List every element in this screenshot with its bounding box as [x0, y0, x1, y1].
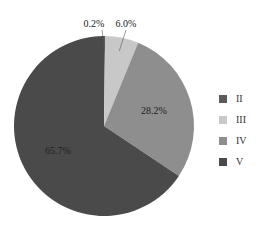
- slice-label: 28.2%: [141, 105, 167, 116]
- legend-item-iii: III: [219, 109, 247, 130]
- slice-label: 0.2%: [84, 18, 105, 29]
- slice-label: 65.7%: [45, 145, 71, 156]
- legend-label: V: [236, 156, 243, 167]
- legend-item-ii: II: [219, 88, 247, 109]
- legend-swatch: [219, 116, 227, 124]
- legend: II III IV V: [219, 88, 247, 172]
- legend-swatch: [219, 95, 227, 103]
- legend-item-iv: IV: [219, 130, 247, 151]
- pie-slices: [14, 36, 194, 216]
- legend-swatch: [219, 158, 227, 166]
- slice-label: 6.0%: [116, 18, 137, 29]
- legend-item-v: V: [219, 151, 247, 172]
- legend-label: III: [236, 114, 246, 125]
- legend-label: IV: [236, 135, 247, 146]
- legend-label: II: [236, 93, 243, 104]
- legend-swatch: [219, 137, 227, 145]
